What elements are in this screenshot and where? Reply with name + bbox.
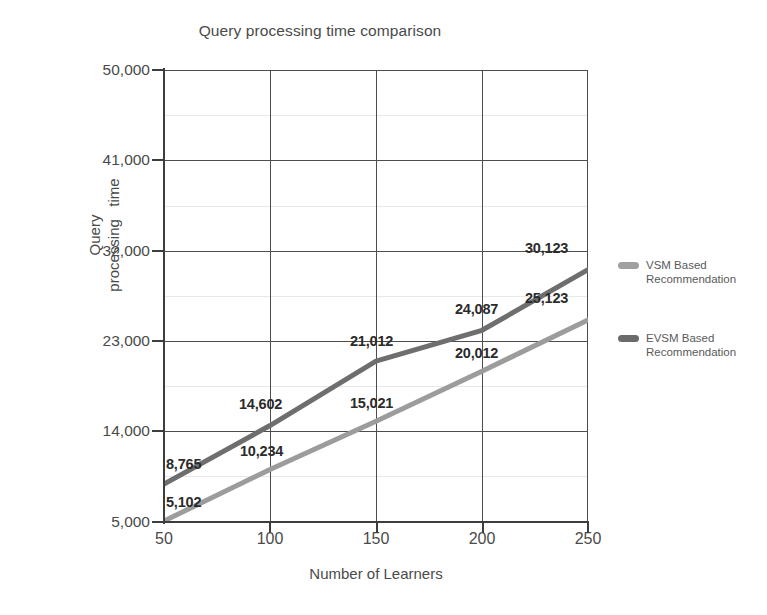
x-tick-mark [482, 522, 484, 533]
chart-figure: Query processing time comparison Query p… [0, 0, 767, 615]
series-line-vsm [164, 320, 588, 521]
data-point-label: 24,087 [455, 301, 498, 317]
y-axis-tick-labels: 50,000 41,000 32,000 23,000 14,000 5,000 [64, 0, 150, 615]
data-point-label: 14,602 [239, 396, 282, 412]
y-tick-label: 41,000 [64, 151, 150, 169]
x-axis-line [163, 521, 589, 523]
legend-swatch-vsm [618, 262, 639, 269]
y-tick-label: 32,000 [64, 242, 150, 260]
data-point-label: 25,123 [525, 290, 568, 306]
x-tick-label: 50 [155, 530, 173, 548]
x-tick-mark [269, 522, 271, 533]
x-tick-mark [587, 522, 589, 533]
legend-item-vsm: VSM Based Recommendation [618, 258, 736, 286]
y-tick-label: 50,000 [64, 61, 150, 79]
legend-label-vsm: VSM Based Recommendation [646, 258, 736, 286]
legend-swatch-evsm [618, 335, 639, 342]
data-point-label: 10,234 [240, 443, 283, 459]
y-tick-label: 23,000 [64, 332, 150, 350]
y-tick-label: 5,000 [64, 513, 150, 531]
y-axis-line [163, 68, 165, 524]
x-axis-label: Number of Learners [164, 565, 588, 582]
data-point-label: 5,102 [166, 494, 201, 510]
y-tick-label: 14,000 [64, 422, 150, 440]
data-point-label: 21,012 [350, 333, 393, 349]
legend-label-evsm: EVSM Based Recommendation [646, 331, 736, 359]
legend-item-evsm: EVSM Based Recommendation [618, 331, 736, 359]
data-point-label: 30,123 [525, 240, 568, 256]
data-point-label: 8,765 [166, 456, 201, 472]
data-point-label: 15,021 [350, 395, 393, 411]
data-point-label: 20,012 [455, 345, 498, 361]
x-tick-mark [376, 522, 378, 533]
